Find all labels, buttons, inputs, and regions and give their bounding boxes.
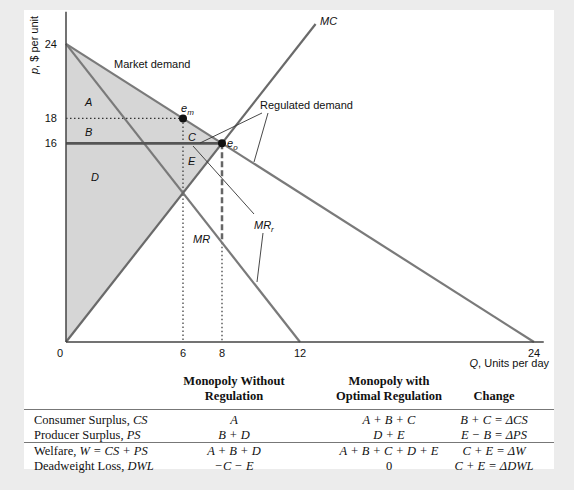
row-label: Consumer Surplus, CS bbox=[34, 413, 148, 428]
area-b-label: B bbox=[85, 126, 92, 138]
mc-label: MC bbox=[320, 15, 337, 27]
row-label-text: Producer Surplus, bbox=[34, 428, 127, 442]
row-label-var: PS bbox=[127, 428, 141, 442]
table-rule-top bbox=[24, 409, 554, 410]
point-eo bbox=[218, 139, 226, 147]
monopoly-regulation-diagram: p, $ per unit 24 18 16 0 6 8 12 24 Q, Un… bbox=[0, 0, 574, 372]
row-label-text: Deadweight Loss, bbox=[34, 459, 127, 473]
cell-change: C + E = ΔW bbox=[434, 444, 554, 459]
header-line: Monopoly Without bbox=[154, 374, 314, 389]
x-tick-8: 8 bbox=[219, 347, 225, 359]
y-axis-var: p bbox=[28, 68, 40, 75]
mr-label: MR bbox=[193, 233, 210, 245]
cell-value: C + E = ΔW bbox=[462, 444, 525, 458]
leader-regulated-demand-2 bbox=[254, 113, 268, 162]
row-label-var: CS bbox=[133, 413, 148, 427]
cell-value: E − B = ΔPS bbox=[461, 428, 527, 442]
table-rule-mid bbox=[24, 442, 554, 443]
x-tick-12: 12 bbox=[294, 347, 306, 359]
area-e-label: E bbox=[188, 155, 196, 167]
cell-without: −C − E bbox=[154, 459, 314, 474]
x-tick-6: 6 bbox=[180, 347, 186, 359]
area-d-label: D bbox=[91, 171, 99, 183]
x-axis-label: Q, Units per day bbox=[470, 357, 550, 369]
cell-without: A bbox=[154, 413, 314, 428]
header-without-regulation: Monopoly Without Regulation bbox=[154, 374, 314, 404]
header-line: Regulation bbox=[154, 389, 314, 404]
point-em bbox=[179, 114, 187, 122]
eo-sub: o bbox=[233, 143, 238, 152]
cell-without: A + B + D bbox=[154, 444, 314, 459]
cell-value: −C − E bbox=[214, 459, 253, 473]
cell-value: C + E = ΔDWL bbox=[454, 459, 533, 473]
cell-value: B + C = ΔCS bbox=[460, 413, 527, 427]
row-label: Deadweight Loss, DWL bbox=[34, 459, 154, 474]
y-tick-24: 24 bbox=[45, 38, 57, 50]
row-label-var: W = CS + PS bbox=[80, 444, 148, 458]
row-label: Producer Surplus, PS bbox=[34, 428, 141, 443]
area-c-label: C bbox=[188, 131, 196, 143]
cell-change: C + E = ΔDWL bbox=[434, 459, 554, 474]
cell-change: B + C = ΔCS bbox=[434, 413, 554, 428]
mr-r-label: MRr bbox=[254, 219, 274, 234]
cell-value: A bbox=[230, 413, 238, 427]
table-row: Welfare, W = CS + PS A + B + D A + B + C… bbox=[24, 444, 554, 459]
header-line: Change bbox=[434, 389, 554, 404]
table-header-row: Monopoly Without Regulation Monopoly wit… bbox=[24, 374, 554, 406]
regulated-demand-label: Regulated demand bbox=[260, 99, 353, 111]
mr-r-main: MR bbox=[254, 219, 271, 231]
row-label-text: Consumer Surplus, bbox=[34, 413, 133, 427]
header-change: Change bbox=[434, 389, 554, 404]
area-a-label: A bbox=[84, 96, 92, 108]
leader-mr-r-1 bbox=[193, 146, 254, 214]
leader-mr-r-2 bbox=[257, 233, 263, 282]
row-label: Welfare, W = CS + PS bbox=[34, 444, 148, 459]
x-tick-0: 0 bbox=[57, 347, 63, 359]
cell-value: B + D bbox=[218, 428, 249, 442]
cell-without: B + D bbox=[154, 428, 314, 443]
mr-r-sub: r bbox=[271, 225, 274, 234]
cell-change: E − B = ΔPS bbox=[434, 428, 554, 443]
y-axis-unit: , $ per unit bbox=[28, 16, 40, 68]
market-demand-label: Market demand bbox=[114, 58, 190, 70]
cell-value: A + B + C bbox=[363, 413, 416, 427]
table-row: Deadweight Loss, DWL −C − E 0 C + E = ΔD… bbox=[24, 459, 554, 474]
cell-value: A + B + D bbox=[207, 444, 260, 458]
row-label-var: DWL bbox=[127, 459, 153, 473]
em-sub: m bbox=[187, 108, 194, 117]
cell-value: D + E bbox=[373, 428, 404, 442]
y-tick-16: 16 bbox=[45, 137, 57, 149]
header-line: Monopoly with bbox=[309, 374, 469, 389]
row-label-text: Welfare, bbox=[34, 444, 80, 458]
table-row: Producer Surplus, PS B + D D + E E − B =… bbox=[24, 428, 554, 443]
cell-value: A + B + C + D + E bbox=[340, 444, 439, 458]
y-tick-18: 18 bbox=[45, 112, 57, 124]
eo-label: eo bbox=[227, 137, 238, 152]
shaded-consumer-producer-region bbox=[66, 44, 222, 342]
cell-value: 0 bbox=[386, 459, 392, 473]
x-axis-unit: , Units per day bbox=[478, 357, 549, 369]
table-row: Consumer Surplus, CS A A + B + C B + C =… bbox=[24, 413, 554, 428]
y-axis-label: p, $ per unit bbox=[28, 16, 40, 75]
